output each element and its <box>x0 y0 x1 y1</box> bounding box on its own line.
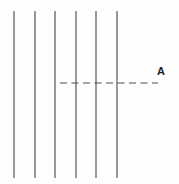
wavefront-diagram: A <box>0 0 179 184</box>
wavefront-group <box>14 11 117 178</box>
ray-direction-label-A: A <box>157 66 165 77</box>
diagram-canvas <box>0 0 179 184</box>
